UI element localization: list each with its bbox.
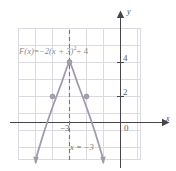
y-tick-label-4: 4 bbox=[123, 54, 128, 63]
x-axis bbox=[10, 119, 170, 126]
y-tick-label-2: 2 bbox=[123, 88, 128, 97]
parabola-figure: F(x)=−2(x + 3)2+ 4 4 2 0 −3 y x x = −3 bbox=[0, 0, 176, 171]
x-axis-label: x bbox=[166, 115, 170, 123]
y-axis-label: y bbox=[127, 8, 131, 16]
left-point bbox=[50, 94, 55, 99]
equation-tail: + 4 bbox=[77, 46, 88, 56]
origin-label: 0 bbox=[124, 124, 129, 133]
equation-function-name: F(x) bbox=[19, 46, 34, 56]
y-axis-arrow-icon bbox=[117, 11, 124, 19]
axis-of-symmetry-label: x = −3 bbox=[70, 143, 94, 152]
vertex-point bbox=[67, 60, 72, 65]
x-tick-label-neg3: −3 bbox=[60, 124, 70, 133]
equation-body: −2(x + 3) bbox=[39, 46, 74, 56]
right-point bbox=[84, 94, 89, 99]
equation-label: F(x)=−2(x + 3)2+ 4 bbox=[19, 45, 88, 55]
